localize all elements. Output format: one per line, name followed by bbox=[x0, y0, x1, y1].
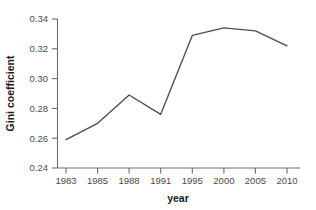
x-tick-label: 2000 bbox=[213, 175, 234, 186]
y-tick-label: 0.24 bbox=[30, 162, 49, 173]
chart-canvas: 0.24 0.26 0.28 0.30 0.32 0.34 1983 1985 … bbox=[0, 0, 316, 210]
y-tick-label: 0.28 bbox=[30, 103, 49, 114]
x-axis-tick-labels: 1983 1985 1988 1991 1995 2000 2005 2010 bbox=[55, 175, 297, 186]
y-tick-label: 0.26 bbox=[30, 133, 49, 144]
x-tick-label: 1985 bbox=[87, 175, 108, 186]
x-axis-ticks bbox=[66, 168, 287, 174]
y-tick-label: 0.32 bbox=[30, 43, 49, 54]
y-axis-ticks bbox=[52, 19, 58, 168]
x-tick-label: 1991 bbox=[150, 175, 171, 186]
y-axis-tick-labels: 0.24 0.26 0.28 0.30 0.32 0.34 bbox=[30, 13, 49, 173]
x-tick-label: 1988 bbox=[119, 175, 140, 186]
x-tick-label: 2010 bbox=[276, 175, 297, 186]
gini-coefficient-line-chart: 0.24 0.26 0.28 0.30 0.32 0.34 1983 1985 … bbox=[0, 0, 316, 210]
y-axis-title: Gini coefficient bbox=[4, 55, 16, 131]
x-tick-label: 2005 bbox=[245, 175, 266, 186]
x-axis-title: year bbox=[167, 192, 189, 204]
data-series-line bbox=[66, 28, 287, 140]
y-tick-label: 0.30 bbox=[30, 73, 49, 84]
x-tick-label: 1995 bbox=[182, 175, 203, 186]
y-tick-label: 0.34 bbox=[30, 13, 49, 24]
x-tick-label: 1983 bbox=[55, 175, 76, 186]
